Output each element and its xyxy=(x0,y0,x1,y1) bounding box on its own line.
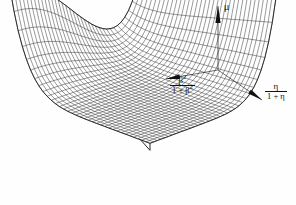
mu-axis-label: μ xyxy=(224,2,229,12)
eta-numerator: η xyxy=(265,82,287,91)
beta-denominator: 1 + β2 xyxy=(170,85,195,95)
surface-plot-figure: μ β2 1 + β2 η 1 + η xyxy=(0,0,296,205)
mu-glyph: μ xyxy=(224,1,229,12)
beta-fraction: β2 1 + β2 xyxy=(170,76,195,95)
eta-fraction: η 1 + η xyxy=(265,82,287,101)
beta-axis-label: β2 1 + β2 xyxy=(170,76,195,95)
eta-axis-label: η 1 + η xyxy=(265,82,287,101)
surface-mesh-canvas xyxy=(0,0,296,205)
eta-denominator: 1 + η xyxy=(265,91,287,101)
